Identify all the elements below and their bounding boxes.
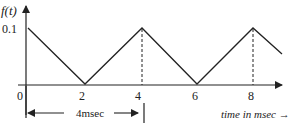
period-annotation: 4msec xyxy=(76,107,104,119)
triangular-waveform xyxy=(28,28,282,84)
x-tick-6: 6 xyxy=(192,89,198,103)
y-tick-label: 0.1 xyxy=(2,22,17,36)
x-axis-caption: time in msec → xyxy=(221,108,290,120)
waveform-diagram: f(t) 0.1 0 2 4 6 8 time in msec → 4msec xyxy=(0,0,295,125)
x-tick-2: 2 xyxy=(79,89,85,103)
x-tick-8: 8 xyxy=(248,89,254,103)
x-tick-4: 4 xyxy=(135,89,141,103)
x-tick-0: 0 xyxy=(17,89,23,103)
y-axis-label: f(t) xyxy=(1,3,17,18)
